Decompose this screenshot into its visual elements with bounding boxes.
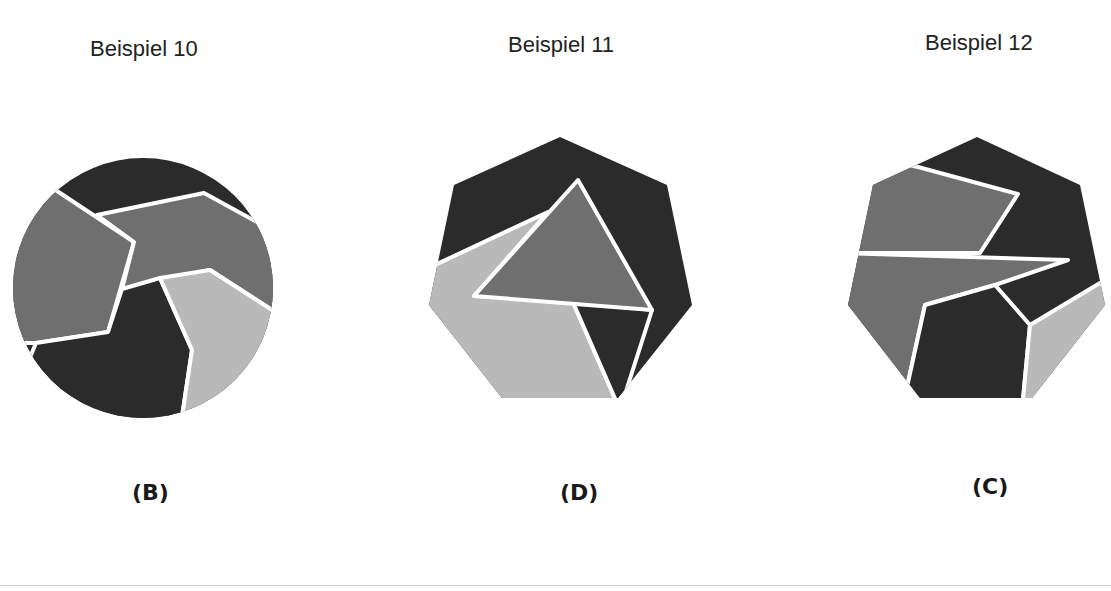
answer-label: (C) bbox=[972, 474, 1008, 499]
bottom-divider bbox=[0, 585, 1111, 586]
heptagon-figure bbox=[0, 0, 1111, 591]
